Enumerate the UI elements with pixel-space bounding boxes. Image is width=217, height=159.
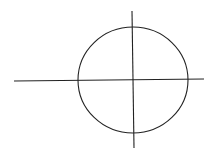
horizontal-axis-line (14, 79, 204, 81)
diagram-canvas (0, 0, 217, 159)
